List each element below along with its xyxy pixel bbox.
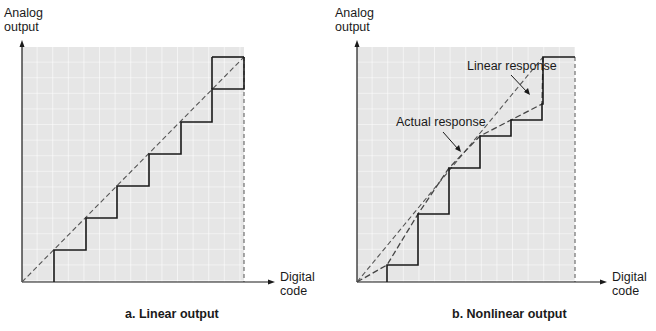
chart-linear [20,40,276,285]
plot-area [22,47,244,282]
chart-nonlinear: Linear response Actual response [355,40,608,285]
annotation-linear-response: Linear response [467,59,557,73]
y-axis-arrow-icon [355,40,360,47]
annotation-actual-response: Actual response [396,115,486,129]
x-axis-arrow-icon [268,280,275,285]
x-axis-arrow-icon [600,280,607,285]
diagram-canvas: Linear response Actual response [0,0,656,331]
y-axis-arrow-icon [20,40,25,47]
